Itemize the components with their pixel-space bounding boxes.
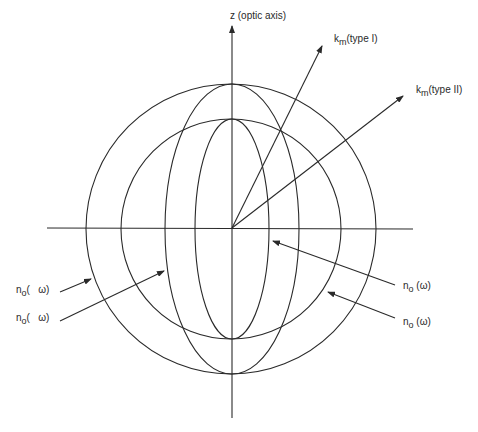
x-axis	[47, 228, 413, 229]
omega-text: ( ω)	[27, 284, 50, 295]
km-type1-arrow	[232, 46, 322, 228]
omega-text: ( ω)	[27, 312, 50, 323]
left-label-2: no( ω)	[16, 312, 49, 324]
left-pointer-1	[60, 279, 91, 292]
right-pointer-1	[273, 241, 395, 285]
km-type2-label: km(type II)	[416, 84, 462, 96]
km-subscript: m	[421, 88, 429, 98]
diagram-canvas	[0, 0, 478, 432]
km-type1-text: (type I)	[347, 33, 378, 44]
omega-text: (ω)	[414, 316, 431, 327]
km-type2-text: (type II)	[429, 84, 463, 95]
right-label-1: no (ω)	[403, 280, 431, 292]
omega-text: (ω)	[414, 280, 431, 291]
km-subscript: m	[339, 37, 347, 47]
left-label-1: no( ω)	[16, 284, 49, 296]
right-label-2: no (ω)	[403, 316, 431, 328]
right-pointer-2	[328, 292, 395, 318]
km-type1-label: km(type I)	[334, 33, 378, 45]
z-axis-label: z (optic axis)	[230, 10, 286, 22]
km-type2-arrow	[232, 96, 403, 228]
left-pointer-2	[60, 271, 164, 321]
